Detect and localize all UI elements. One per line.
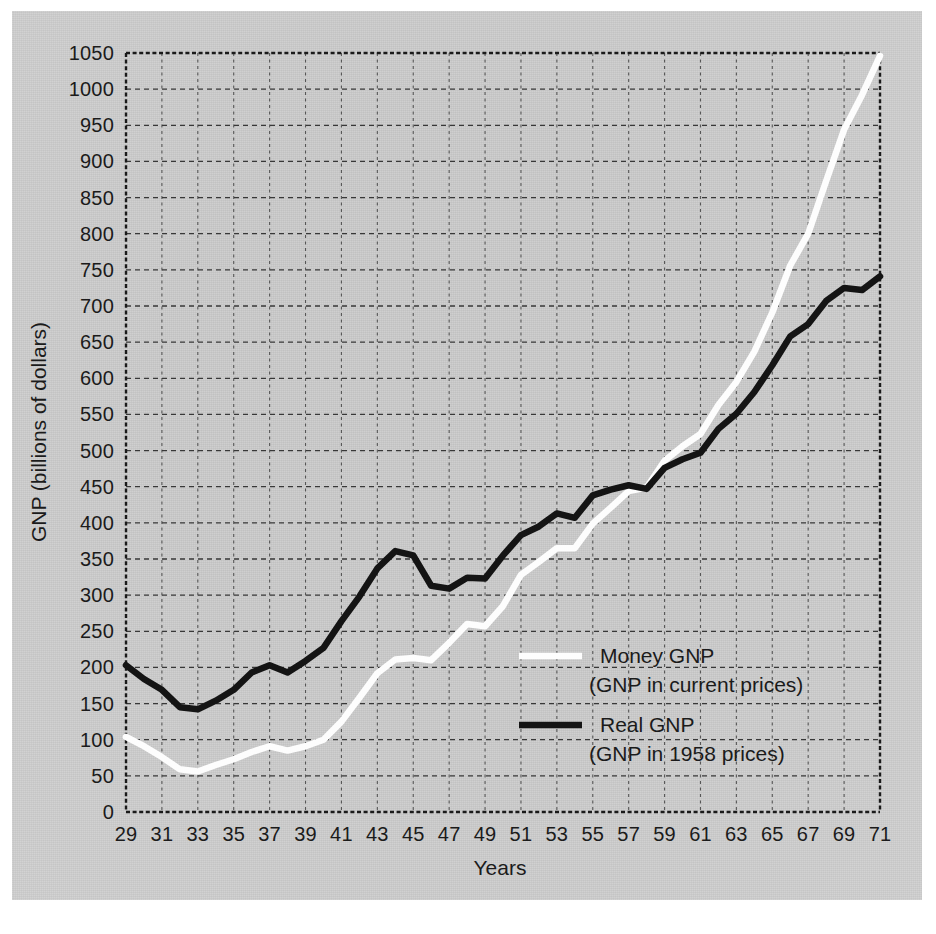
y-tick-label: 300 bbox=[80, 584, 114, 606]
x-tick-label: 37 bbox=[258, 823, 281, 845]
x-tick-label: 57 bbox=[617, 823, 640, 845]
legend-label-money-gnp: Money GNP bbox=[600, 644, 714, 667]
x-tick-label: 59 bbox=[653, 823, 676, 845]
y-tick-label: 350 bbox=[80, 548, 114, 570]
y-tick-label: 100 bbox=[80, 729, 114, 751]
series-line-money-gnp bbox=[126, 56, 880, 772]
x-tick-label: 55 bbox=[581, 823, 604, 845]
chart-canvas: 0501001502002503003504004505005506006507… bbox=[0, 0, 936, 934]
x-tick-label: 65 bbox=[761, 823, 784, 845]
x-tick-label: 67 bbox=[797, 823, 820, 845]
y-tick-label: 0 bbox=[103, 801, 114, 823]
y-tick-label: 450 bbox=[80, 476, 114, 498]
legend-label-real-gnp: Real GNP bbox=[600, 713, 695, 736]
y-tick-label: 500 bbox=[80, 440, 114, 462]
y-tick-label: 850 bbox=[80, 187, 114, 209]
axis-lines bbox=[126, 53, 880, 812]
x-tick-label: 39 bbox=[294, 823, 317, 845]
x-tick-label: 41 bbox=[330, 823, 353, 845]
y-tick-label: 400 bbox=[80, 512, 114, 534]
y-tick-label: 550 bbox=[80, 403, 114, 425]
y-tick-label: 750 bbox=[80, 259, 114, 281]
chart-legend: Money GNP (GNP in current prices) Real G… bbox=[519, 644, 803, 765]
y-axis-title: GNP (billions of dollars) bbox=[27, 322, 50, 542]
x-tick-label: 31 bbox=[151, 823, 174, 845]
x-axis-tick-labels: 2931333537394143454749515355575961636567… bbox=[115, 823, 892, 845]
y-tick-label: 600 bbox=[80, 367, 114, 389]
legend-sublabel-real-gnp: (GNP in 1958 prices) bbox=[589, 742, 785, 765]
gnp-line-chart: 0501001502002503003504004505005506006507… bbox=[0, 0, 936, 934]
y-tick-label: 50 bbox=[91, 765, 114, 787]
x-tick-label: 33 bbox=[186, 823, 209, 845]
x-tick-label: 43 bbox=[366, 823, 389, 845]
y-tick-label: 1050 bbox=[69, 42, 114, 64]
y-tick-label: 950 bbox=[80, 114, 114, 136]
x-tick-label: 47 bbox=[438, 823, 461, 845]
y-tick-label: 200 bbox=[80, 656, 114, 678]
x-tick-label: 71 bbox=[869, 823, 892, 845]
x-axis-title: Years bbox=[474, 856, 527, 879]
y-tick-label: 900 bbox=[80, 150, 114, 172]
x-tick-label: 35 bbox=[222, 823, 245, 845]
x-tick-label: 29 bbox=[115, 823, 138, 845]
gridlines bbox=[126, 53, 880, 812]
x-tick-label: 69 bbox=[833, 823, 856, 845]
legend-sublabel-money-gnp: (GNP in current prices) bbox=[589, 673, 803, 696]
x-tick-label: 61 bbox=[689, 823, 712, 845]
y-tick-label: 650 bbox=[80, 331, 114, 353]
y-tick-label: 800 bbox=[80, 223, 114, 245]
y-tick-label: 250 bbox=[80, 620, 114, 642]
y-tick-label: 1000 bbox=[69, 78, 114, 100]
x-tick-label: 63 bbox=[725, 823, 748, 845]
x-tick-label: 45 bbox=[402, 823, 425, 845]
series-line-real-gnp bbox=[126, 276, 880, 709]
y-tick-label: 700 bbox=[80, 295, 114, 317]
y-tick-label: 150 bbox=[80, 693, 114, 715]
x-tick-label: 53 bbox=[546, 823, 569, 845]
y-axis-tick-labels: 0501001502002503003504004505005506006507… bbox=[69, 42, 114, 823]
x-tick-label: 49 bbox=[474, 823, 497, 845]
data-series bbox=[126, 56, 880, 772]
x-tick-label: 51 bbox=[510, 823, 533, 845]
